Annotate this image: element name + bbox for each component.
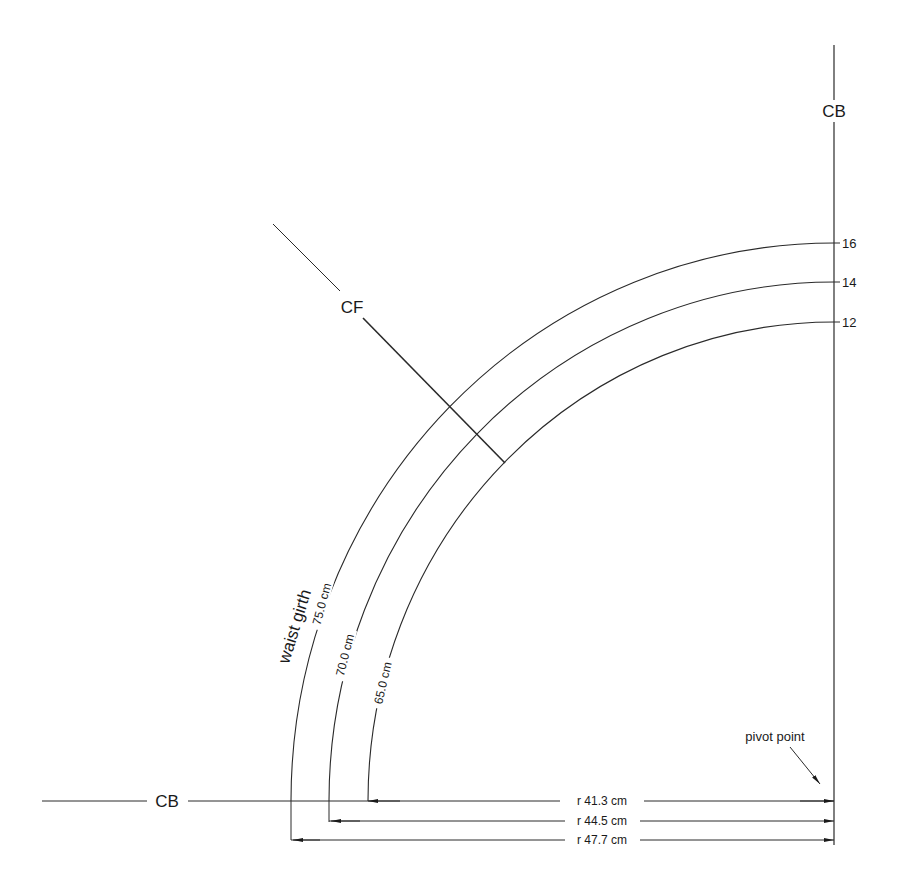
radius-label-14: r 44.5 cm bbox=[577, 814, 627, 828]
cf-line-outer bbox=[273, 224, 340, 291]
pivot-point-label: pivot point bbox=[745, 729, 805, 744]
radius-label-16: r 47.7 cm bbox=[577, 833, 627, 847]
size-label-16: 16 bbox=[842, 236, 856, 251]
cb-left-label: CB bbox=[155, 792, 179, 811]
cf-label: CF bbox=[341, 298, 364, 317]
girth-label-14: 70.0 cm bbox=[333, 633, 357, 678]
cf-line-inner bbox=[363, 318, 505, 463]
size-label-12: 12 bbox=[842, 315, 856, 330]
radius-label-12-fg: r 41.3 cm bbox=[577, 794, 627, 808]
girth-65-label-group: 65.0 cm bbox=[369, 656, 395, 710]
girth-70-label-group: 70.0 cm bbox=[331, 628, 358, 682]
girth-label-12: 65.0 cm bbox=[371, 661, 394, 706]
pivot-point-arrow bbox=[790, 747, 820, 784]
cb-top-label: CB bbox=[822, 102, 846, 121]
waist-arc-pattern-diagram: CB CB 16 14 12 CF r 41.3 cm r 44.5 cm r … bbox=[0, 0, 903, 894]
size-label-14: 14 bbox=[842, 275, 856, 290]
